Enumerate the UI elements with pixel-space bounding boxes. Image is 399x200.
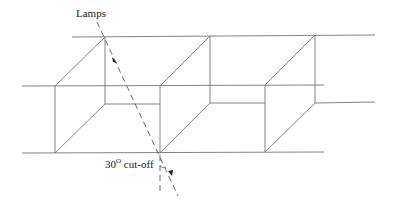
lamp-grid-diagram (0, 0, 399, 200)
bottom-rail (22, 152, 324, 153)
lamps-label: Lamps (76, 7, 106, 19)
right-lower-rail (315, 102, 375, 103)
cutoff-angle: 30 (105, 158, 116, 170)
lamp-beam-dashed (97, 22, 178, 196)
cutoff-label: 30O cut-off (105, 157, 154, 170)
middle-rail (22, 85, 324, 86)
beam-arrow-icon (112, 57, 117, 63)
top-rail (72, 35, 375, 37)
angle-mark (160, 166, 166, 168)
cutoff-text: cut-off (121, 158, 153, 170)
cutoff-arrow-icon (168, 170, 173, 176)
